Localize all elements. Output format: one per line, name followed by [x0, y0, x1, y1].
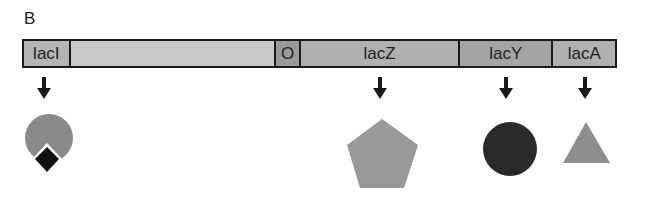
triangle-icon	[563, 122, 610, 163]
products-layer	[0, 0, 646, 205]
arrow-down-icon-lacZ	[373, 77, 387, 99]
pentagon-icon	[347, 119, 418, 188]
circle-icon	[483, 122, 537, 176]
arrow-down-icon-lacY	[499, 77, 513, 99]
repressor-icon	[25, 114, 73, 176]
arrow-down-icon-lacA	[578, 77, 592, 99]
arrow-down-icon-lacI	[37, 77, 51, 99]
